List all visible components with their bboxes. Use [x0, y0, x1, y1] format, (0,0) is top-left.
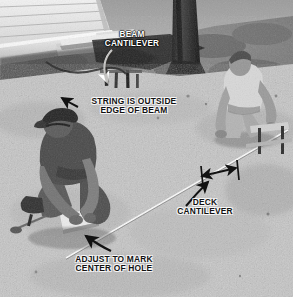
film-grain-overlay	[0, 0, 293, 297]
page-border-right	[293, 0, 303, 307]
photo-canvas	[0, 0, 293, 297]
instructional-photograph	[0, 0, 293, 297]
screenshot-root: BEAM CANTILEVER STRING IS OUTSIDE EDGE O…	[0, 0, 303, 307]
page-border-bottom	[0, 297, 303, 307]
